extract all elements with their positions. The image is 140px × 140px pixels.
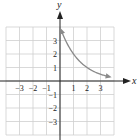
y-axis-arrow-icon	[57, 11, 63, 19]
curve-start-arrow-icon	[60, 28, 65, 35]
x-tick-label: 3	[99, 84, 103, 93]
x-tick-label: 1	[72, 84, 76, 93]
x-tick-label: 2	[85, 84, 89, 93]
y-tick-label: 3	[53, 37, 57, 46]
coordinate-graph: x y −3−2−1123321−1−2−3	[0, 0, 140, 140]
x-axis-arrow-icon	[123, 78, 131, 84]
y-tick-label: 1	[53, 64, 57, 73]
y-tick-label: −3	[48, 118, 57, 127]
y-axis-label: y	[56, 0, 62, 10]
y-tick-label: −2	[48, 104, 57, 113]
axes: x y	[0, 0, 137, 140]
x-tick-label: −3	[15, 84, 24, 93]
curve-end-arrow-icon	[105, 73, 111, 78]
x-tick-label: −2	[29, 84, 38, 93]
x-axis-label: x	[131, 75, 137, 86]
curve	[60, 28, 111, 78]
y-tick-label: −1	[48, 91, 57, 100]
curve-line	[61, 30, 110, 77]
y-tick-label: 2	[53, 50, 57, 59]
